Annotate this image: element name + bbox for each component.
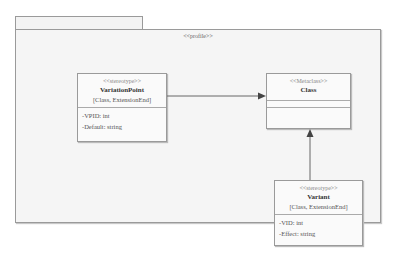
arrowhead-icon (307, 129, 314, 137)
connectors (0, 0, 401, 269)
arrowhead-icon (258, 93, 266, 100)
